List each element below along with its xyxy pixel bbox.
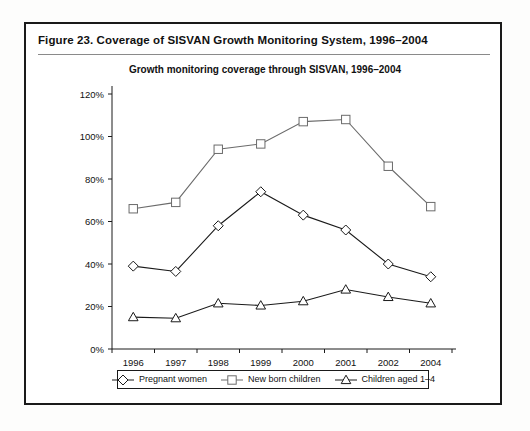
data-point-marker <box>341 285 351 293</box>
x-tick-label: 2004 <box>420 357 441 368</box>
y-tick-label: 80% <box>85 174 105 185</box>
y-tick-label: 100% <box>80 131 105 142</box>
x-tick-label: 1996 <box>123 357 144 368</box>
data-point-marker <box>427 202 435 210</box>
data-point-marker <box>299 117 307 125</box>
data-point-marker <box>342 115 350 123</box>
data-series-group <box>128 115 436 321</box>
data-point-marker <box>172 198 180 206</box>
data-point-marker <box>128 261 138 271</box>
y-tick-label: 120% <box>80 89 105 100</box>
y-axis-tick-labels: 0%20%40%60%80%100%120% <box>80 89 105 355</box>
chart-legend: Pregnant womenNew born childrenChildren … <box>117 370 429 389</box>
legend-item: New born children <box>220 374 321 386</box>
data-point-marker <box>384 162 392 170</box>
legend-triangle-marker-icon <box>334 374 358 386</box>
legend-item: Children aged 1–4 <box>334 374 436 386</box>
chart-axes <box>112 86 456 349</box>
y-axis-ticks <box>108 94 112 349</box>
data-point-marker <box>426 272 436 282</box>
x-axis-tick-labels: 19961997199819992000200120022004 <box>123 357 442 368</box>
legend-item: Pregnant women <box>111 374 207 386</box>
legend-diamond-marker-icon <box>111 374 135 386</box>
data-point-marker <box>298 210 308 220</box>
x-tick-label: 2002 <box>378 357 399 368</box>
legend-label: New born children <box>248 375 321 384</box>
series-new-born-children <box>129 115 435 213</box>
y-tick-label: 40% <box>85 259 105 270</box>
y-tick-label: 20% <box>85 301 105 312</box>
x-tick-label: 2000 <box>293 357 314 368</box>
figure-page: Figure 23. Coverage of SISVAN Growth Mon… <box>0 0 530 431</box>
data-point-marker <box>129 205 137 213</box>
legend-square-marker-icon <box>220 374 244 386</box>
series-children-aged-1-4 <box>128 285 435 322</box>
legend-label: Pregnant women <box>139 375 207 384</box>
legend-label: Children aged 1–4 <box>362 375 436 384</box>
chart-plot-area: 0%20%40%60%80%100%120% 19961997199819992… <box>26 24 504 407</box>
data-point-marker <box>128 312 138 320</box>
x-tick-label: 1997 <box>165 357 186 368</box>
x-tick-label: 2001 <box>335 357 356 368</box>
figure-box: Figure 23. Coverage of SISVAN Growth Mon… <box>24 22 502 405</box>
y-tick-label: 0% <box>90 344 104 355</box>
x-axis-ticks <box>112 349 452 353</box>
data-point-marker <box>257 140 265 148</box>
x-tick-label: 1998 <box>208 357 229 368</box>
y-tick-label: 60% <box>85 216 105 227</box>
data-point-marker <box>213 299 223 307</box>
x-tick-label: 1999 <box>250 357 271 368</box>
line-chart-svg: 0%20%40%60%80%100%120% 19961997199819992… <box>26 24 504 407</box>
data-point-marker <box>214 145 222 153</box>
